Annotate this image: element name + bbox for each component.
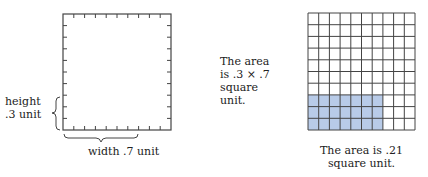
- height-brace-icon: [52, 97, 60, 130]
- area-caption-line1: The area is .21: [308, 144, 415, 157]
- width-label: width .7 unit: [88, 145, 159, 158]
- height-label: height: [5, 95, 41, 108]
- area-expression: The area is .3 × .7 square unit.: [220, 55, 270, 107]
- left-rectangle: [63, 14, 171, 130]
- area-expression-line3: square: [220, 81, 270, 94]
- width-brace-icon: [64, 134, 138, 142]
- area-caption-line2: square unit.: [308, 157, 415, 170]
- height-value: .3 unit: [5, 108, 41, 121]
- area-expression-line1: The area: [220, 55, 270, 68]
- area-expression-line4: unit.: [220, 94, 270, 107]
- area-grid: [308, 13, 415, 130]
- area-expression-line2: is .3 × .7: [220, 68, 270, 81]
